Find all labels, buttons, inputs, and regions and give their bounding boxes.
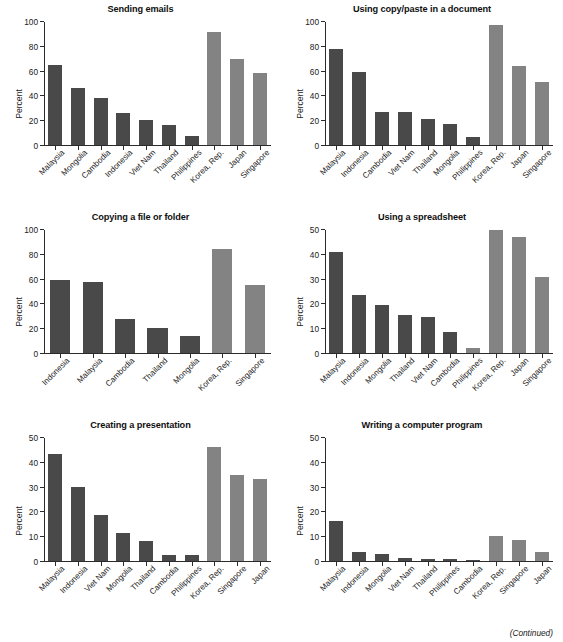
chart-panel: Writing a computer programPercent0102030… bbox=[281, 416, 563, 626]
bar bbox=[375, 554, 389, 561]
y-axis-tick-label: 0 bbox=[33, 141, 38, 151]
y-axis-tick-label: 0 bbox=[314, 349, 319, 359]
y-axis-tick bbox=[321, 536, 325, 537]
x-axis-tick-label: Indonesia bbox=[40, 356, 71, 387]
y-axis-tick bbox=[40, 120, 44, 121]
bar bbox=[329, 521, 343, 561]
plot-area: 020406080100 bbox=[325, 22, 553, 146]
bar bbox=[489, 25, 503, 145]
y-axis-tick-label: 40 bbox=[29, 91, 38, 101]
bar bbox=[398, 558, 412, 561]
chart-title: Using a spreadsheet bbox=[281, 212, 563, 222]
y-axis-tick-label: 20 bbox=[310, 507, 319, 517]
x-axis-tick-label: Thailand bbox=[141, 356, 169, 384]
plot-area: 020406080100 bbox=[44, 230, 271, 354]
y-axis-tick bbox=[321, 279, 325, 280]
y-axis-line bbox=[44, 22, 45, 146]
y-axis-tick bbox=[40, 462, 44, 463]
bar bbox=[139, 120, 153, 145]
bar bbox=[185, 555, 199, 561]
bar bbox=[375, 112, 389, 145]
y-axis-tick-label: 60 bbox=[29, 275, 38, 285]
x-axis-tick-label: Cambodia bbox=[104, 356, 136, 388]
y-axis-tick-label: 30 bbox=[310, 275, 319, 285]
bar bbox=[212, 249, 232, 353]
y-axis-tick-label: 0 bbox=[314, 557, 319, 567]
chart-title: Using copy/paste in a document bbox=[281, 4, 563, 14]
bar bbox=[329, 252, 343, 353]
y-axis-tick-label: 10 bbox=[310, 324, 319, 334]
y-axis-tick bbox=[40, 279, 44, 280]
y-axis-tick-label: 20 bbox=[29, 116, 38, 126]
x-axis-label-group: MalaysiaIndonesiaMongoliaViet NamThailan… bbox=[325, 564, 553, 622]
bar bbox=[329, 49, 343, 145]
x-axis-label-group: MalaysiaIndonesiaCambodiaViet NamThailan… bbox=[325, 148, 553, 206]
bar bbox=[489, 536, 503, 561]
bar bbox=[180, 336, 200, 353]
chart-panel: Using copy/paste in a documentPercent020… bbox=[281, 0, 563, 208]
bar bbox=[253, 479, 267, 561]
y-axis-tick bbox=[321, 511, 325, 512]
y-axis-tick-label: 20 bbox=[29, 324, 38, 334]
y-axis-tick-label: 60 bbox=[310, 67, 319, 77]
bar bbox=[116, 113, 130, 145]
y-axis-tick bbox=[321, 120, 325, 121]
y-axis-tick-label: 0 bbox=[314, 141, 319, 151]
y-axis-tick-label: 0 bbox=[33, 349, 38, 359]
bar bbox=[489, 230, 503, 353]
chart-title: Copying a file or folder bbox=[0, 212, 281, 222]
x-axis-label-group: IndonesiaMalaysiaCambodiaThailandMongoli… bbox=[44, 356, 271, 414]
y-axis-tick bbox=[40, 95, 44, 96]
multi-panel-bar-chart-figure: Sending emailsPercent020406080100Malaysi… bbox=[0, 0, 563, 642]
y-axis-label: Percent bbox=[295, 89, 305, 119]
y-axis-line bbox=[44, 230, 45, 354]
x-axis-tick-label: Malaysia bbox=[75, 356, 104, 385]
y-axis-tick bbox=[321, 254, 325, 255]
bar bbox=[245, 285, 265, 353]
bar bbox=[421, 317, 435, 353]
bar bbox=[352, 552, 366, 561]
plot-area: 01020304050 bbox=[44, 438, 271, 562]
x-axis-tick-label: Singapore bbox=[234, 356, 266, 388]
y-axis-tick bbox=[321, 561, 325, 562]
chart-title: Sending emails bbox=[0, 4, 281, 14]
y-axis-tick-label: 40 bbox=[310, 250, 319, 260]
bar bbox=[253, 73, 267, 145]
y-axis-tick bbox=[321, 95, 325, 96]
y-axis-tick-label: 50 bbox=[310, 225, 319, 235]
bar bbox=[116, 533, 130, 561]
bar bbox=[398, 112, 412, 145]
y-axis-line bbox=[325, 438, 326, 562]
bar bbox=[94, 515, 108, 561]
chart-title: Creating a presentation bbox=[0, 420, 281, 430]
y-axis-tick-label: 100 bbox=[305, 17, 319, 27]
chart-panel: Copying a file or folderPercent020406080… bbox=[0, 208, 281, 416]
bar bbox=[512, 66, 526, 145]
plot-area: 01020304050 bbox=[325, 230, 553, 354]
y-axis-tick bbox=[321, 229, 325, 230]
bar bbox=[207, 32, 221, 145]
chart-panel: Creating a presentationPercent0102030405… bbox=[0, 416, 281, 626]
bar bbox=[207, 447, 221, 561]
y-axis-tick bbox=[321, 145, 325, 146]
bar bbox=[421, 119, 435, 145]
y-axis-tick bbox=[321, 46, 325, 47]
y-axis-label: Percent bbox=[14, 297, 24, 327]
x-axis-tick-label: Mongolia bbox=[172, 356, 202, 386]
y-axis-tick-label: 30 bbox=[310, 483, 319, 493]
bar bbox=[535, 277, 549, 353]
y-axis-tick-label: 40 bbox=[29, 458, 38, 468]
y-axis-tick bbox=[40, 511, 44, 512]
bar bbox=[443, 124, 457, 145]
bar bbox=[71, 88, 85, 145]
plot-area: 01020304050 bbox=[325, 438, 553, 562]
bar bbox=[71, 487, 85, 561]
bar bbox=[230, 59, 244, 145]
x-axis-label-group: MalaysiaIndonesiaMongoliaThailandViet Na… bbox=[325, 356, 553, 414]
y-axis-tick bbox=[321, 328, 325, 329]
y-axis-tick bbox=[321, 487, 325, 488]
chart-title: Writing a computer program bbox=[281, 420, 563, 430]
y-axis-tick bbox=[40, 46, 44, 47]
y-axis-tick bbox=[321, 462, 325, 463]
y-axis-tick-label: 20 bbox=[29, 507, 38, 517]
